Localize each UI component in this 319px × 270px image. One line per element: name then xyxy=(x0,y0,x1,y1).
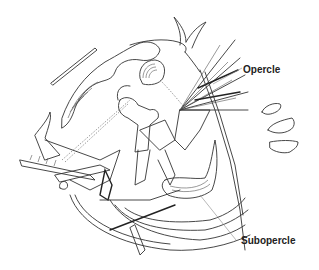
preopercle xyxy=(162,140,217,198)
subopercle-leader-line xyxy=(200,195,236,240)
isolated-bones-right xyxy=(262,103,298,152)
suspensorium xyxy=(117,86,175,185)
opercle-fan xyxy=(175,40,248,250)
gill-arches xyxy=(70,170,250,255)
label-subopercle: Subopercle xyxy=(241,235,295,246)
fish-skull-drawing xyxy=(0,0,319,270)
jaws xyxy=(20,112,120,190)
opercle-leader-line xyxy=(213,68,242,84)
label-opercle: Opercle xyxy=(243,64,280,75)
neurocranium xyxy=(62,17,206,128)
diagram-canvas: Opercle Subopercle xyxy=(0,0,319,270)
isolated-bone-rod xyxy=(51,48,97,85)
